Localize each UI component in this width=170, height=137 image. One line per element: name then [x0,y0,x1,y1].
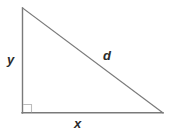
hypotenuse-label: d [103,49,111,62]
triangle-drawing [0,0,170,137]
hypotenuse-line [23,8,164,113]
right-triangle-figure: y d x [0,0,170,137]
vertical-leg-label: y [7,53,14,66]
right-angle-marker-icon [23,104,32,112]
horizontal-leg-label: x [74,117,81,130]
